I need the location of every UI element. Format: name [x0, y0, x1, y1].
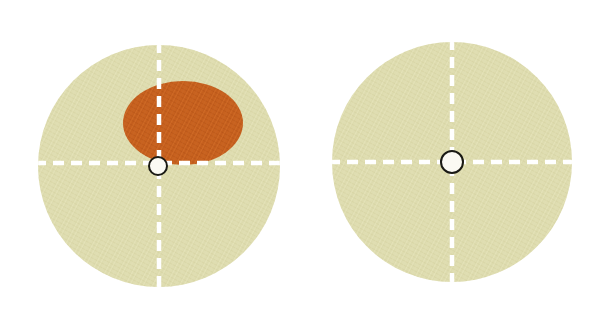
figure-canvas [0, 0, 600, 325]
center-hole-right [441, 151, 463, 173]
center-hole-left [149, 157, 167, 175]
lesion-group-left [123, 81, 243, 165]
two-disc-figure [0, 0, 600, 325]
lesion-ellipse-left-texture [123, 81, 243, 165]
